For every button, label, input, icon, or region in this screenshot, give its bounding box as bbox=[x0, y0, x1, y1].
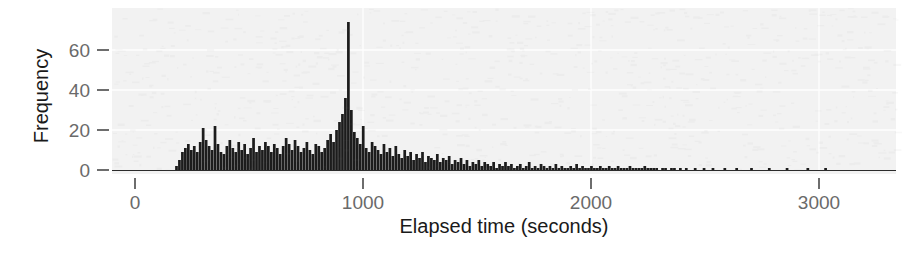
histogram-figure: 0204060 0100020003000 Elapsed time (seco… bbox=[0, 0, 914, 256]
y-tick-label: 40 bbox=[69, 80, 90, 101]
x-axis-title: Elapsed time (seconds) bbox=[400, 215, 609, 237]
x-tick-label: 2000 bbox=[570, 192, 612, 213]
histogram-svg: 0204060 0100020003000 Elapsed time (seco… bbox=[0, 0, 914, 256]
y-tick-label: 60 bbox=[69, 40, 90, 61]
x-tick-label: 0 bbox=[130, 192, 141, 213]
x-tick-label: 3000 bbox=[798, 192, 840, 213]
y-axis-title: Frequency bbox=[30, 49, 52, 144]
x-axis-ticks: 0100020003000 bbox=[130, 178, 840, 213]
x-tick-label: 1000 bbox=[342, 192, 384, 213]
y-tick-label: 0 bbox=[79, 160, 90, 181]
y-tick-label: 20 bbox=[69, 120, 90, 141]
y-axis-ticks: 0204060 bbox=[69, 40, 109, 181]
